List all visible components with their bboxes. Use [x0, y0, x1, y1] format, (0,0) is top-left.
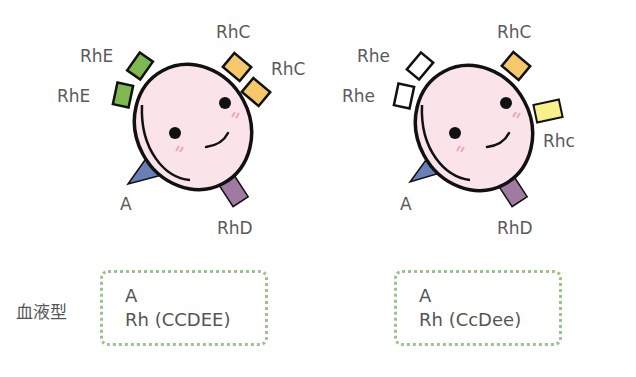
right-cell [394, 45, 563, 212]
left-rhe-antigen-2-icon [113, 83, 133, 108]
left-label-rhe-2: RhE [57, 88, 90, 105]
right-label-rhd: RhD [497, 220, 533, 237]
left-label-rhd: RhD [217, 220, 253, 237]
right-label-a: A [400, 196, 412, 213]
right-label-rhc-lower: Rhc [543, 133, 575, 150]
left-abo-type: A [125, 287, 137, 305]
left-label-rhe-1: RhE [80, 48, 113, 65]
left-blood-type-box: A Rh (CCDEE) [100, 270, 268, 346]
right-blood-type-box: A Rh (CcDee) [394, 270, 562, 346]
right-rhc-antigen-icon [502, 52, 530, 80]
rh-blood-type-diagram: RhC RhC RhE RhE A RhD RhC Rhc Rhe Rhe A … [0, 0, 636, 377]
right-label-rhe-2: Rhe [342, 88, 375, 105]
left-rhc-antigen-1-icon [223, 53, 251, 81]
left-rhe-antigen-1-icon [127, 52, 153, 79]
left-label-rhc-1: RhC [216, 24, 250, 41]
left-cell-eye-icon [219, 97, 231, 109]
right-label-rhc: RhC [497, 24, 531, 41]
right-label-rhe-1: Rhe [357, 48, 390, 65]
blood-type-label: 血液型 [16, 304, 67, 321]
left-label-a: A [120, 196, 132, 213]
right-rhc-lower-antigen-icon [533, 99, 562, 122]
left-rh-type: Rh (CCDEE) [125, 311, 230, 329]
right-cell-eye-icon [500, 97, 512, 109]
right-rhe-antigen-1-icon [407, 52, 433, 79]
left-cell-eye-icon [169, 127, 181, 139]
right-rh-type: Rh (CcDee) [419, 311, 521, 329]
right-cell-eye-icon [449, 127, 461, 139]
left-label-rhc-2: RhC [271, 61, 305, 78]
right-abo-type: A [419, 287, 431, 305]
left-cell [113, 44, 274, 211]
right-rhe-antigen-2-icon [394, 84, 414, 109]
